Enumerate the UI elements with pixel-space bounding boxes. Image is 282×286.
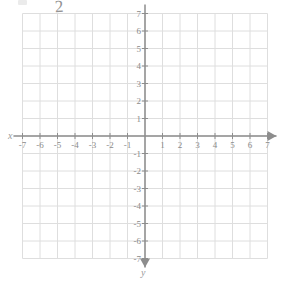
coordinate-plane: 2 -7-6-5-4-3-2-112345677654321-1-2-3-4-5… — [0, 0, 282, 286]
x-tick-label: 4 — [213, 141, 218, 150]
x-tick-label: -1 — [124, 141, 132, 150]
x-tick-label: -2 — [106, 141, 114, 150]
x-tick-label: -6 — [36, 141, 44, 150]
y-tick-label: -3 — [134, 184, 142, 193]
y-tick-label: 7 — [137, 9, 142, 18]
y-axis-label: y — [141, 268, 145, 278]
y-tick-label: -2 — [134, 167, 142, 176]
x-tick-label: -7 — [19, 141, 27, 150]
x-tick-label: -5 — [54, 141, 62, 150]
x-tick-label: 3 — [195, 141, 200, 150]
y-tick-label: -4 — [134, 202, 142, 211]
y-tick-label: 4 — [137, 62, 142, 71]
x-axis-label: x — [8, 131, 12, 141]
y-tick-label: -6 — [134, 237, 142, 246]
ink-smudge-artifact — [18, 0, 27, 5]
y-tick-label: -7 — [134, 254, 142, 263]
y-tick-label: -5 — [134, 219, 142, 228]
y-tick-label: 1 — [137, 114, 142, 123]
x-tick-label: 1 — [160, 141, 165, 150]
x-tick-label: -3 — [89, 141, 97, 150]
x-tick-label: -4 — [71, 141, 79, 150]
y-tick-label: 2 — [137, 97, 142, 106]
handwritten-two-annotation: 2 — [54, 0, 64, 17]
x-tick-label: 6 — [248, 141, 253, 150]
y-tick-label: -1 — [134, 149, 142, 158]
y-tick-label: 5 — [137, 44, 142, 53]
x-tick-label: 7 — [265, 141, 270, 150]
y-tick-label: 6 — [137, 27, 142, 36]
y-tick-label: 3 — [137, 79, 142, 88]
x-tick-label: 5 — [230, 141, 235, 150]
x-tick-label: 2 — [178, 141, 183, 150]
